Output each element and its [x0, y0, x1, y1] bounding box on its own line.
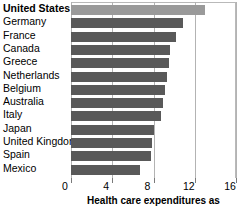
x-gridline	[236, 2, 237, 178]
bar	[71, 45, 170, 55]
bar	[71, 98, 163, 108]
bar	[71, 72, 167, 82]
bar	[71, 125, 154, 135]
bar-chart-figure: United StatesGermanyFranceCanadaGreeceNe…	[0, 0, 238, 207]
tick-label: 12	[177, 179, 201, 193]
bar	[71, 151, 151, 161]
category-label: Australia	[0, 95, 69, 108]
x-gridline	[195, 2, 196, 178]
plot-area	[71, 2, 236, 178]
tick-label: 8	[136, 179, 160, 193]
x-axis-tick-labels: 0481216	[0, 179, 238, 193]
category-label: Belgium	[0, 82, 69, 95]
tick-label: 0	[53, 179, 77, 193]
bar	[71, 165, 140, 175]
category-label: Germany	[0, 15, 69, 28]
category-label: Netherlands	[0, 69, 69, 82]
category-label: Spain	[0, 148, 69, 161]
tick-label: 4	[94, 179, 118, 193]
category-label: United Kingdom	[0, 135, 69, 148]
x-axis-caption: Health care expenditures as	[71, 195, 236, 207]
category-label: Canada	[0, 42, 69, 55]
bar	[71, 5, 205, 15]
bar	[71, 85, 165, 95]
category-label: Mexico	[0, 162, 69, 175]
category-label: United States	[0, 2, 69, 15]
bar	[71, 111, 161, 121]
bar	[71, 32, 176, 42]
category-label: Japan	[0, 122, 69, 135]
category-axis-labels: United StatesGermanyFranceCanadaGreeceNe…	[0, 0, 69, 178]
category-label: Italy	[0, 108, 69, 121]
bar	[71, 138, 152, 148]
bar	[71, 18, 183, 28]
bar	[71, 58, 169, 68]
category-label: Greece	[0, 55, 69, 68]
category-label: France	[0, 29, 69, 42]
tick-label: 16	[218, 179, 238, 193]
